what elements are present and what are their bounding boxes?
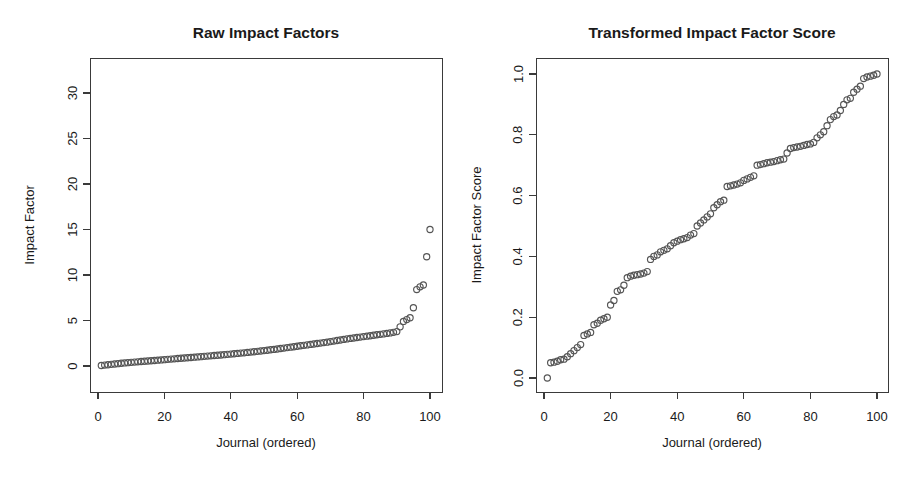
chart-svg-raw-impact-factors: Raw Impact Factors0204060801000510152025… [0, 0, 456, 483]
chart-title-raw-impact-factors: Raw Impact Factors [193, 24, 339, 41]
y-tick-label: 0.2 [511, 308, 526, 326]
x-tick-label: 100 [419, 409, 441, 424]
x-tick-label: 60 [290, 409, 304, 424]
y-tick-label: 20 [65, 177, 80, 191]
y-axis-label-raw-impact-factors: Impact Factor [22, 185, 37, 265]
y-axis-raw-impact-factors: 051015202530 [65, 86, 91, 370]
y-tick-label: 30 [65, 86, 80, 100]
chart-panel-transformed-impact-factor-score: Transformed Impact Factor Score020406080… [456, 0, 911, 483]
x-axis-label-transformed-impact-factor-score: Journal (ordered) [662, 435, 762, 450]
x-axis-raw-impact-factors: 020406080100 [94, 392, 440, 424]
x-tick-label: 0 [94, 409, 101, 424]
chart-panel-raw-impact-factors: Raw Impact Factors0204060801000510152025… [0, 0, 456, 483]
data-points-transformed-impact-factor-score [544, 71, 880, 381]
x-tick-label: 40 [670, 409, 684, 424]
y-tick-label: 0.8 [511, 126, 526, 144]
chart-title-transformed-impact-factor-score: Transformed Impact Factor Score [588, 24, 836, 41]
y-axis-transformed-impact-factor-score: 0.00.20.40.60.81.0 [511, 65, 537, 387]
data-point [544, 375, 550, 381]
data-point [621, 282, 627, 288]
y-tick-label: 0.0 [511, 369, 526, 387]
x-tick-label: 100 [866, 409, 888, 424]
plot-box-transformed-impact-factor-score [537, 59, 889, 393]
x-tick-label: 0 [540, 409, 547, 424]
y-tick-label: 0.4 [511, 247, 526, 265]
x-tick-label: 40 [224, 409, 238, 424]
data-point [611, 297, 617, 303]
x-tick-label: 60 [737, 409, 751, 424]
x-tick-label: 80 [803, 409, 817, 424]
data-points-raw-impact-factors [98, 226, 433, 368]
y-tick-label: 25 [65, 131, 80, 145]
figure-container: Raw Impact Factors0204060801000510152025… [0, 0, 911, 483]
chart-svg-transformed-impact-factor-score: Transformed Impact Factor Score020406080… [456, 0, 911, 483]
y-tick-label: 5 [65, 317, 80, 324]
x-tick-label: 80 [356, 409, 370, 424]
data-point [427, 226, 433, 232]
y-tick-label: 0.6 [511, 187, 526, 205]
y-tick-label: 15 [65, 222, 80, 236]
x-axis-transformed-impact-factor-score: 020406080100 [540, 392, 887, 424]
plot-box-raw-impact-factors [91, 59, 443, 393]
x-tick-label: 20 [157, 409, 171, 424]
y-tick-label: 10 [65, 268, 80, 282]
x-tick-label: 20 [603, 409, 617, 424]
data-point [410, 305, 416, 311]
data-point [837, 107, 843, 113]
y-tick-label: 0 [65, 362, 80, 369]
data-point [824, 123, 830, 129]
x-axis-label-raw-impact-factors: Journal (ordered) [216, 435, 316, 450]
y-tick-label: 1.0 [511, 65, 526, 83]
data-point [424, 254, 430, 260]
y-axis-label-transformed-impact-factor-score: Impact Factor Score [469, 166, 484, 283]
